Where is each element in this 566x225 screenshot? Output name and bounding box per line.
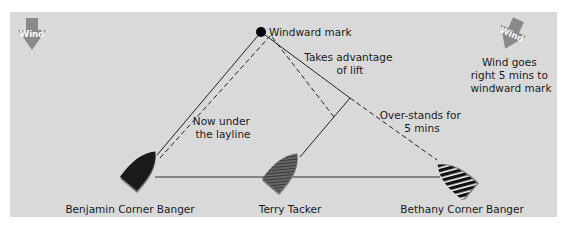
lift-annotation: Takes advantage of lift: [303, 51, 396, 76]
boat-terry-icon: [261, 146, 307, 195]
overstand-annotation: Over-stands for 5 mins: [380, 109, 464, 134]
sailing-diagram: Windward mark Takes advantage of lift No…: [0, 0, 566, 225]
terry-dashed: [272, 37, 334, 117]
wind-shift-note: Wind goes right 5 mins to windward mark: [470, 56, 552, 94]
windward-mark-icon: [256, 27, 266, 37]
boat-terry-label: Terry Tacker: [258, 203, 322, 215]
wind-arrow-right-icon: Wind: [492, 14, 531, 55]
boat-benjamin-label: Benjamin Corner Banger: [65, 203, 195, 215]
boat-bethany-icon: [430, 155, 479, 201]
wind-arrow-left-icon: Wind: [18, 18, 46, 50]
boat-bethany-label: Bethany Corner Banger: [400, 203, 524, 215]
boat-benjamin-icon: [119, 144, 165, 193]
terry-track-starboard: [300, 98, 350, 157]
layline-annotation: Now under the layline: [193, 115, 253, 140]
svg-text:Wind: Wind: [20, 29, 44, 39]
windward-mark-label: Windward mark: [269, 26, 353, 38]
